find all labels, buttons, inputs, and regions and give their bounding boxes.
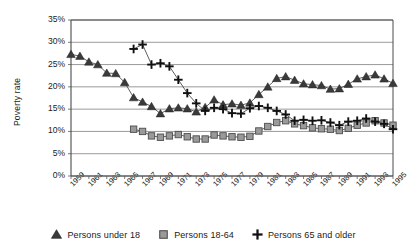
data-point-square	[166, 133, 172, 139]
data-point-square	[247, 133, 253, 139]
data-point-triangle	[85, 58, 94, 65]
chart-legend: Persons under 18Persons 18-64Persons 65 …	[0, 228, 406, 241]
data-point-square	[229, 134, 235, 140]
data-point-square	[148, 133, 154, 139]
data-point-plus	[228, 109, 237, 118]
data-point-triangle	[94, 60, 103, 67]
legend-item-label: Persons under 18	[67, 230, 140, 240]
data-point-plus	[263, 104, 272, 113]
data-point-plus	[344, 117, 353, 126]
data-point-plus	[272, 107, 281, 116]
legend-item-triangle[interactable]: Persons under 18	[50, 228, 140, 241]
data-point-triangle	[52, 230, 62, 239]
data-point-triangle	[380, 75, 389, 82]
data-point-plus	[308, 116, 317, 125]
series-markers	[67, 50, 398, 117]
data-point-square	[157, 134, 163, 140]
data-point-square	[309, 125, 315, 131]
data-point-triangle	[389, 79, 398, 86]
legend-item-square[interactable]: Persons 18-64	[157, 228, 234, 241]
data-point-plus	[174, 75, 183, 84]
data-point-triangle	[299, 80, 308, 87]
data-point-square	[238, 134, 244, 140]
data-point-square	[345, 125, 351, 131]
data-point-triangle	[67, 50, 76, 57]
legend-item-label: Persons 65 and older	[268, 230, 356, 240]
data-point-triangle	[335, 85, 344, 92]
data-point-square	[175, 131, 181, 137]
legend-item-plus[interactable]: Persons 65 and older	[251, 228, 356, 241]
data-point-square	[256, 128, 262, 134]
data-point-square	[327, 126, 333, 132]
data-point-triangle	[344, 80, 353, 87]
data-point-square	[202, 136, 208, 142]
triangle-icon	[50, 228, 63, 241]
data-point-triangle	[156, 110, 165, 117]
data-point-square	[193, 136, 199, 142]
data-point-plus	[210, 104, 219, 113]
data-point-plus	[129, 45, 138, 54]
data-point-square	[160, 231, 168, 239]
data-point-plus	[252, 229, 262, 239]
data-point-triangle	[138, 98, 147, 105]
data-point-plus	[147, 60, 156, 69]
data-point-square	[265, 123, 271, 129]
data-point-square	[184, 134, 190, 140]
data-point-triangle	[290, 76, 299, 83]
data-point-square	[318, 126, 324, 132]
data-point-plus	[326, 118, 335, 127]
data-point-plus	[138, 40, 147, 49]
data-point-triangle	[228, 100, 237, 107]
data-point-square	[139, 128, 145, 134]
legend-item-label: Persons 18-64	[174, 230, 234, 240]
data-point-triangle	[174, 104, 183, 111]
data-point-plus	[165, 62, 174, 71]
data-point-triangle	[210, 96, 219, 103]
data-point-triangle	[147, 102, 156, 109]
data-point-triangle	[129, 93, 138, 100]
data-point-plus	[156, 59, 165, 68]
data-point-square	[274, 119, 280, 125]
data-point-triangle	[281, 73, 290, 80]
plus-icon	[251, 228, 264, 241]
data-point-square	[130, 126, 136, 132]
data-point-triangle	[371, 71, 380, 78]
data-point-plus	[237, 109, 246, 118]
data-point-square	[220, 133, 226, 139]
data-point-square	[211, 132, 217, 138]
square-icon	[157, 228, 170, 241]
data-point-plus	[317, 116, 326, 125]
